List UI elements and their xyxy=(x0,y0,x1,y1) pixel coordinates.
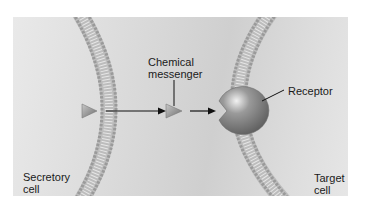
label-line: messenger xyxy=(148,68,202,80)
messenger-released-icon xyxy=(82,104,97,118)
label-line: Secretory xyxy=(23,171,70,183)
messenger-in-transit-icon xyxy=(166,104,182,118)
leader-line xyxy=(262,90,284,101)
arrow-icon xyxy=(190,108,216,115)
secretory-membrane xyxy=(71,10,116,206)
label-receptor: Receptor xyxy=(288,85,333,97)
label-target-cell: Target cell xyxy=(314,172,345,196)
label-secretory-cell: Secretory cell xyxy=(23,171,70,195)
receptor-icon xyxy=(219,87,269,135)
label-chemical-messenger: Chemical messenger xyxy=(148,56,202,80)
label-line: cell xyxy=(314,184,345,196)
label-line: cell xyxy=(23,183,70,195)
label-line: Target xyxy=(314,172,345,184)
label-line: Chemical xyxy=(148,56,202,68)
